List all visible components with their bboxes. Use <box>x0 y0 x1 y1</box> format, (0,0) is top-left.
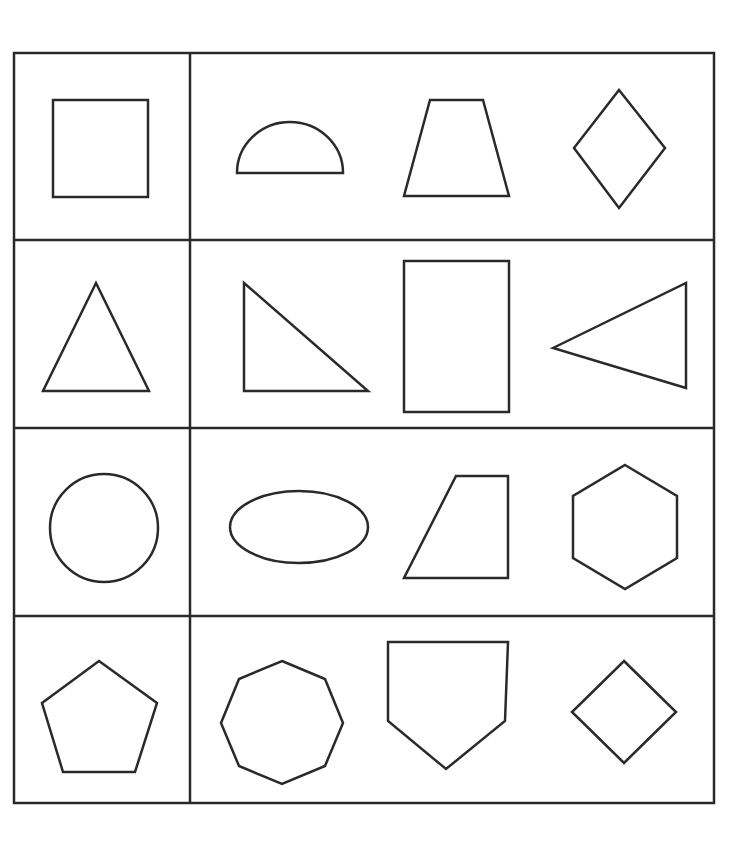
octagon-shape <box>221 661 343 784</box>
left-pointing-triangle-shape <box>553 283 686 388</box>
ellipse-shape <box>230 491 368 563</box>
square-shape <box>53 100 148 197</box>
trapezoid-shape <box>404 100 509 196</box>
rhombus-shape <box>574 90 665 208</box>
equilateral-triangle-shape <box>43 283 149 391</box>
grid-row-3 <box>50 465 677 589</box>
right-triangle-shape <box>244 283 368 391</box>
pentagon-shape <box>42 661 157 772</box>
hexagon-shape <box>573 465 677 589</box>
square-diamond-shape <box>572 661 676 763</box>
rectangle-shape <box>404 261 509 412</box>
home-plate-pentagon-shape <box>388 642 508 769</box>
grid-row-4 <box>42 642 676 784</box>
grid-row-1 <box>53 90 665 208</box>
semicircle-shape <box>237 122 343 173</box>
shape-grid <box>0 0 754 846</box>
right-trapezoid-shape <box>404 476 508 578</box>
grid-row-2 <box>43 261 686 412</box>
circle-shape <box>50 474 158 582</box>
